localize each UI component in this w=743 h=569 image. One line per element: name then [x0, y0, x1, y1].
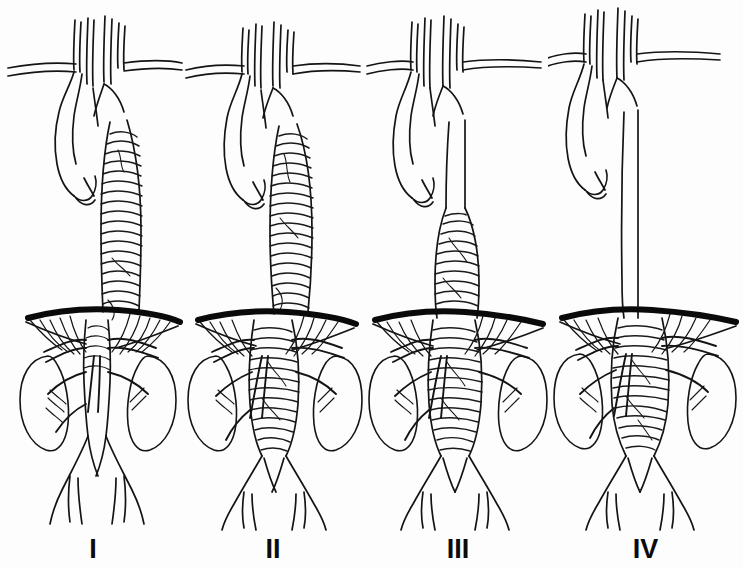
right-kidney-icon	[20, 356, 69, 451]
abdominal-aneurysm-hatching	[428, 328, 482, 451]
iliac-bifurcation-icon	[222, 456, 326, 530]
visceral-branches-icon	[391, 339, 529, 440]
aortic-arch-icon	[224, 74, 293, 209]
iliac-bifurcation-icon	[586, 456, 694, 530]
panel-type-iv: IV	[548, 0, 743, 569]
panel-type-ii: II	[180, 0, 366, 569]
arch-branches-icon	[548, 8, 720, 80]
visceral-branches-icon	[212, 339, 344, 440]
right-kidney-icon	[554, 354, 603, 449]
aortic-arch-icon	[393, 72, 463, 207]
panel-label-i: I	[0, 536, 186, 563]
diaphragm-icon	[560, 309, 736, 354]
arch-branches-icon	[186, 22, 360, 88]
left-kidney-icon	[313, 356, 362, 451]
left-kidney-icon	[127, 356, 176, 451]
aortic-arch-icon	[566, 64, 637, 199]
visceral-branches-icon	[44, 339, 158, 432]
panel-type-iii: III	[365, 0, 551, 569]
visceral-branches-icon	[576, 337, 718, 438]
panel-label-iv: IV	[548, 536, 743, 563]
panel-label-ii: II	[180, 536, 366, 563]
crawford-classification-figure: Crawford classification of thoracoabdomi…	[0, 0, 743, 569]
aortic-arch-icon	[55, 72, 124, 205]
panel-label-iii: III	[365, 536, 551, 563]
iliac-bifurcation-icon	[401, 456, 509, 530]
abdominal-aneurysm-hatching	[613, 326, 669, 450]
arch-branches-icon	[8, 16, 182, 86]
proximal-descending-aorta	[446, 120, 465, 208]
iliac-bifurcation-icon	[50, 436, 144, 524]
panel-type-i: I	[0, 0, 186, 569]
left-kidney-icon	[687, 354, 736, 449]
right-kidney-icon	[188, 356, 237, 451]
arch-branches-icon	[367, 16, 541, 88]
left-kidney-icon	[498, 356, 547, 451]
right-kidney-icon	[369, 356, 418, 451]
normal-descending-aorta	[622, 110, 638, 318]
abdominal-aorta-icon	[84, 320, 111, 436]
